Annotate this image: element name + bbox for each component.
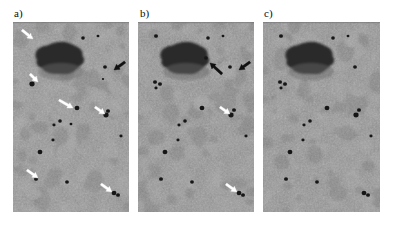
particle — [206, 36, 210, 39]
particle — [222, 35, 225, 38]
particle — [97, 35, 100, 38]
particle — [237, 191, 242, 195]
micrograph-image-a — [13, 22, 129, 212]
particle — [302, 124, 305, 127]
particle — [353, 65, 357, 69]
particle — [241, 193, 245, 197]
particle — [75, 106, 80, 110]
micrograph-panel-c — [263, 22, 380, 212]
particle — [331, 36, 335, 39]
particle — [353, 113, 358, 118]
panel-label-a: a) — [14, 8, 23, 19]
particle — [244, 135, 247, 138]
figure-root: a)b)c) — [0, 0, 393, 226]
particle — [308, 119, 312, 122]
particle — [279, 34, 283, 38]
particle — [29, 82, 34, 87]
particle — [51, 139, 54, 142]
particle — [366, 193, 370, 197]
particle — [159, 177, 163, 181]
micrograph-panel-b — [138, 22, 254, 212]
micrograph-image-c — [263, 22, 380, 212]
particle — [154, 34, 158, 38]
particle — [315, 180, 319, 184]
particle — [116, 193, 120, 197]
particle — [112, 191, 117, 195]
particle — [278, 80, 282, 84]
panel-label-b: b) — [140, 8, 149, 19]
particle — [284, 177, 288, 181]
particle — [163, 150, 168, 154]
micrograph-panel-a — [13, 22, 129, 212]
particle — [103, 65, 107, 69]
particle — [70, 123, 73, 126]
particle — [153, 80, 157, 84]
particle — [369, 135, 372, 138]
particle — [228, 65, 232, 69]
particle — [283, 82, 287, 86]
particle — [288, 150, 293, 154]
particle — [158, 82, 162, 86]
particle — [52, 124, 55, 127]
particle — [357, 108, 361, 112]
particle — [190, 180, 194, 184]
particle — [200, 106, 205, 110]
particle — [279, 87, 282, 90]
particle — [177, 124, 180, 127]
particle — [154, 87, 157, 90]
particle — [176, 139, 179, 142]
particle — [183, 119, 187, 122]
micrograph-image-b — [138, 22, 254, 212]
particle — [81, 36, 85, 39]
particle — [301, 139, 304, 142]
particle — [38, 150, 43, 154]
particle — [204, 56, 208, 59]
particle — [325, 106, 330, 110]
particle — [102, 78, 104, 80]
panel-label-c: c) — [264, 8, 273, 19]
particle — [347, 35, 350, 38]
particle — [106, 109, 110, 113]
particle — [58, 119, 62, 122]
particle — [119, 135, 122, 138]
particle — [232, 108, 236, 112]
particle — [362, 191, 367, 195]
particle — [65, 180, 69, 184]
